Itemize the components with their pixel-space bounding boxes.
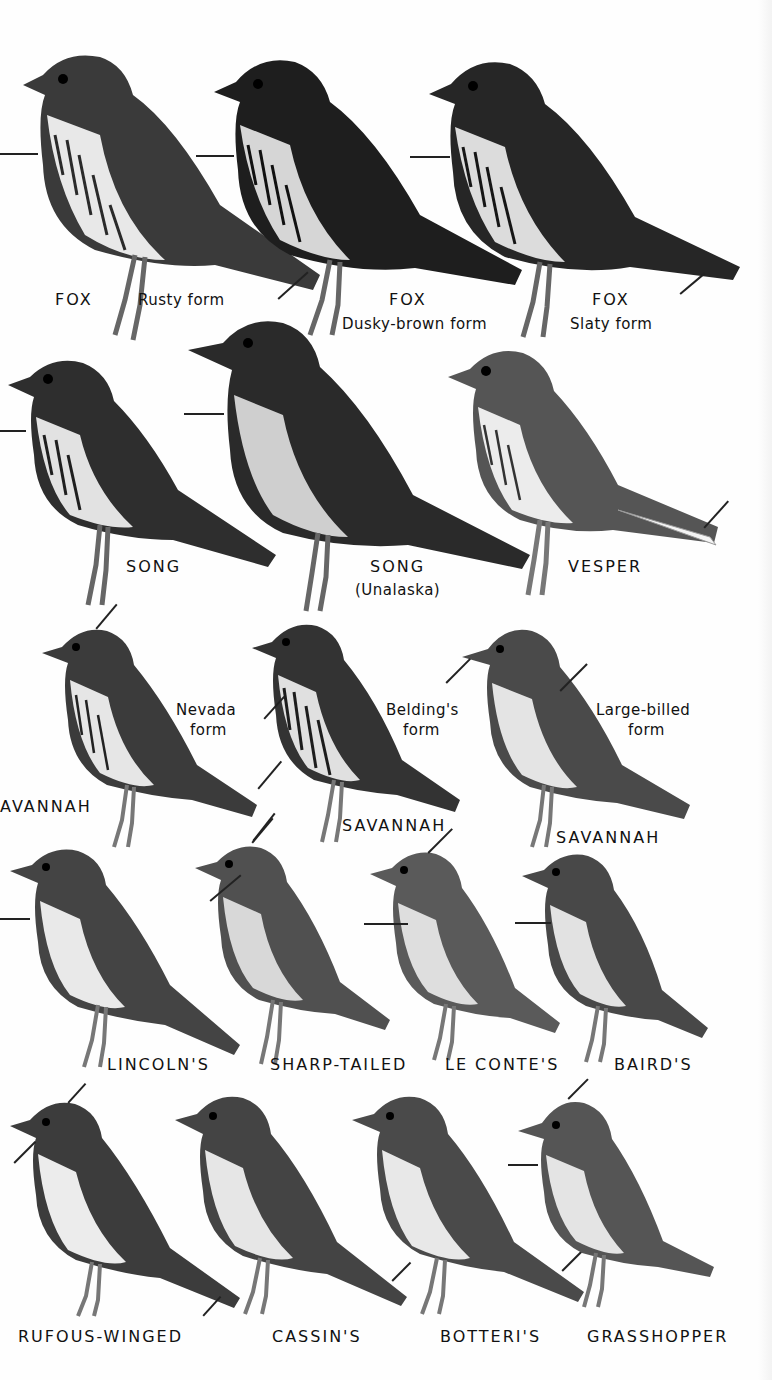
species-label: CASSIN'S (272, 1327, 362, 1347)
field-mark-pointer (410, 156, 450, 158)
sparrow-illustration-icon (425, 52, 745, 342)
bird-grasshopper (518, 1095, 718, 1310)
species-label: FOX (55, 290, 93, 310)
bird-bairds (522, 850, 712, 1065)
species-label: SONG (370, 557, 425, 577)
page-edge-shadow (758, 0, 772, 1380)
species-label: SAVANNAH (556, 828, 660, 848)
field-mark-pointer (0, 918, 30, 920)
species-label: FOX (389, 290, 427, 310)
species-label: VESPER (568, 557, 642, 577)
species-label: RUFOUS-WINGED (18, 1327, 183, 1347)
form-label: Large-billed (596, 700, 690, 720)
field-mark-pointer (508, 1164, 538, 1166)
field-mark-pointer (364, 923, 408, 925)
field-mark-pointer (0, 153, 38, 155)
form-label: form (190, 720, 227, 740)
field-mark-pointer (515, 922, 551, 924)
bird-sharp-tailed (195, 842, 395, 1067)
bird-fox-slaty (425, 52, 745, 342)
form-label: form (628, 720, 665, 740)
form-label: Nevada (176, 700, 236, 720)
form-label: Belding's (386, 700, 459, 720)
species-label: FOX (592, 290, 630, 310)
species-label: BAIRD'S (614, 1055, 693, 1075)
field-mark-pointer (184, 413, 224, 415)
form-label: Slaty form (570, 314, 652, 334)
sparrow-illustration-icon (518, 1095, 718, 1310)
sparrow-illustration-icon (195, 842, 395, 1067)
species-label: AVANNAH (0, 797, 92, 817)
species-label: BOTTERI'S (440, 1327, 541, 1347)
sparrow-illustration-icon (522, 850, 712, 1065)
field-guide-plate: FOX Rusty form FOX Dusky-brown form FOX … (0, 0, 772, 1380)
form-label: (Unalaska) (355, 580, 440, 600)
field-mark-pointer (0, 430, 26, 432)
field-mark-pointer (196, 155, 234, 157)
species-label: GRASSHOPPER (587, 1327, 728, 1347)
species-label: SAVANNAH (342, 816, 446, 836)
species-label: SONG (126, 557, 181, 577)
form-label: form (403, 720, 440, 740)
